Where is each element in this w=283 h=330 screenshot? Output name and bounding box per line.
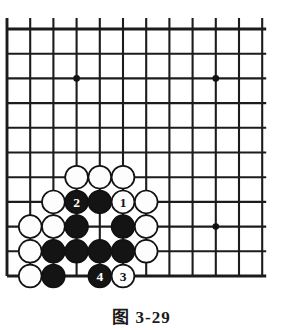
- go-stone-black[interactable]: [88, 191, 111, 214]
- star-point: [73, 75, 80, 82]
- go-board-canvas: 2143: [0, 0, 283, 300]
- stone-move-number: 4: [96, 269, 103, 284]
- go-stone-white[interactable]: [19, 265, 42, 288]
- go-stone-black[interactable]: [112, 240, 135, 263]
- stone-move-number: 1: [120, 195, 127, 210]
- stone-disc: [112, 215, 135, 238]
- stone-disc: [112, 166, 135, 189]
- go-stone-white[interactable]: [135, 215, 158, 238]
- go-stone-black[interactable]: [42, 265, 65, 288]
- go-stone-black[interactable]: [65, 240, 88, 263]
- go-stone-black[interactable]: [42, 240, 65, 263]
- stone-disc: [42, 191, 65, 214]
- stone-disc: [65, 240, 88, 263]
- stone-disc: [19, 265, 42, 288]
- go-stone-white[interactable]: [19, 240, 42, 263]
- stone-disc: [65, 166, 88, 189]
- stone-disc: [42, 215, 65, 238]
- star-point: [213, 75, 220, 82]
- stones-group: 2143: [19, 166, 158, 288]
- go-stone-white[interactable]: 1: [112, 191, 135, 214]
- go-stone-white[interactable]: [135, 191, 158, 214]
- go-stone-black[interactable]: [112, 215, 135, 238]
- go-stone-black[interactable]: [88, 240, 111, 263]
- go-stone-black[interactable]: [65, 215, 88, 238]
- go-stone-black[interactable]: 2: [65, 191, 88, 214]
- stone-disc: [88, 191, 111, 214]
- stone-move-number: 3: [120, 269, 127, 284]
- go-stone-white[interactable]: [42, 191, 65, 214]
- stone-disc: [135, 240, 158, 263]
- go-stone-white[interactable]: 3: [112, 265, 135, 288]
- go-board: 2143: [0, 0, 283, 300]
- go-diagram-figure: 2143 图 3-29: [0, 0, 283, 330]
- go-stone-white[interactable]: [112, 166, 135, 189]
- stone-disc: [65, 215, 88, 238]
- stone-disc: [112, 240, 135, 263]
- stone-disc: [135, 215, 158, 238]
- go-stone-white[interactable]: [88, 166, 111, 189]
- stone-disc: [42, 240, 65, 263]
- go-stone-white[interactable]: [135, 240, 158, 263]
- go-stone-white[interactable]: [65, 166, 88, 189]
- figure-caption: 图 3-29: [0, 303, 283, 330]
- go-stone-white[interactable]: [19, 215, 42, 238]
- stone-disc: [42, 265, 65, 288]
- stone-disc: [88, 240, 111, 263]
- stone-disc: [135, 191, 158, 214]
- go-stone-white[interactable]: [42, 215, 65, 238]
- stone-disc: [88, 166, 111, 189]
- go-stone-black[interactable]: 4: [88, 265, 111, 288]
- stone-move-number: 2: [73, 195, 80, 210]
- stone-disc: [19, 215, 42, 238]
- board-grid: [7, 18, 266, 276]
- stone-disc: [19, 240, 42, 263]
- star-point: [213, 223, 220, 230]
